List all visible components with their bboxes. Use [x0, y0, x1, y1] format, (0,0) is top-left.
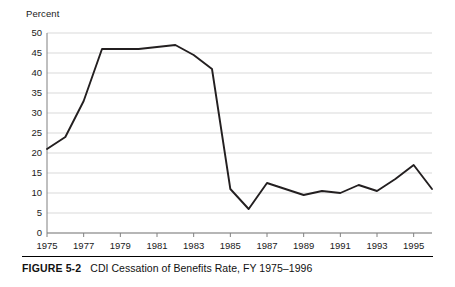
- chart-plot-area: Percent 50454035302520151050 19751977197…: [0, 0, 455, 255]
- data-series-line: [47, 45, 432, 209]
- gridlines-group: [47, 33, 432, 233]
- caption-figure-number: FIGURE 5-2: [22, 262, 81, 274]
- y-tick-label: 45: [20, 48, 42, 58]
- y-tick-label: 20: [20, 148, 42, 158]
- figure-container: Percent 50454035302520151050 19751977197…: [0, 0, 455, 287]
- y-tick-label: 50: [20, 28, 42, 38]
- y-tick-label: 15: [20, 168, 42, 178]
- y-tick-label: 35: [20, 88, 42, 98]
- x-tick-label: 1987: [247, 241, 287, 251]
- y-tick-label: 5: [20, 208, 42, 218]
- y-tick-label: 10: [20, 188, 42, 198]
- figure-caption: FIGURE 5-2CDI Cessation of Benefits Rate…: [22, 256, 433, 275]
- x-tick-marks-group: [47, 233, 414, 237]
- y-tick-label: 0: [20, 228, 42, 238]
- y-tick-label: 40: [20, 68, 42, 78]
- x-tick-label: 1975: [27, 241, 67, 251]
- x-tick-label: 1991: [320, 241, 360, 251]
- x-tick-label: 1985: [210, 241, 250, 251]
- x-tick-label: 1977: [64, 241, 104, 251]
- x-tick-label: 1983: [174, 241, 214, 251]
- line-chart-svg: [0, 0, 455, 255]
- x-tick-label: 1981: [137, 241, 177, 251]
- x-tick-label: 1979: [100, 241, 140, 251]
- y-tick-label: 30: [20, 108, 42, 118]
- y-tick-label: 25: [20, 128, 42, 138]
- caption-title: CDI Cessation of Benefits Rate, FY 1975–…: [90, 262, 312, 274]
- caption-divider: [22, 256, 433, 257]
- x-tick-label: 1989: [284, 241, 324, 251]
- caption-text: FIGURE 5-2CDI Cessation of Benefits Rate…: [22, 262, 433, 275]
- x-tick-label: 1993: [357, 241, 397, 251]
- x-tick-label: 1995: [394, 241, 434, 251]
